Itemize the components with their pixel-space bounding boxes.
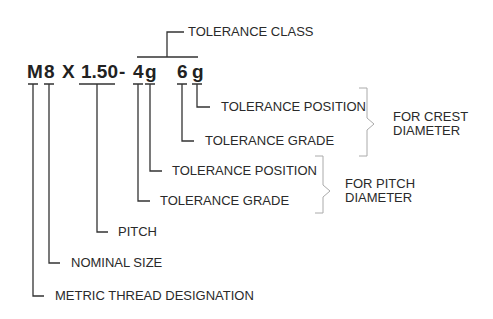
group-crest-line2: DIAMETER (393, 124, 460, 138)
pitch-grade-leader (133, 84, 150, 201)
label-tolerance-class: TOLERANCE CLASS (188, 25, 313, 39)
designation-size: 8 (44, 62, 55, 82)
pitch-brace (315, 156, 330, 213)
pitch-position-leader (145, 84, 162, 171)
designation-pitch: 1.50 (81, 62, 118, 82)
nominal-size-leader (44, 84, 60, 263)
group-pitch-line2: DIAMETER (345, 191, 412, 205)
leader-lines (0, 0, 493, 319)
label-pitch-tolerance-grade: TOLERANCE GRADE (160, 194, 289, 208)
crest-grade-leader (177, 84, 194, 141)
designation-pitch-grade: 4 (133, 62, 144, 82)
designation-x: X (62, 62, 75, 82)
group-pitch-line1: FOR PITCH (345, 177, 415, 191)
label-metric-thread-designation: METRIC THREAD DESIGNATION (55, 289, 254, 303)
label-pitch: PITCH (118, 225, 157, 239)
designation-m: M (27, 62, 43, 82)
label-crest-tolerance-grade: TOLERANCE GRADE (205, 134, 334, 148)
crest-position-leader (192, 84, 210, 107)
designation-crest-grade: 6 (177, 62, 188, 82)
label-crest-tolerance-position: TOLERANCE POSITION (221, 100, 366, 114)
label-pitch-tolerance-position: TOLERANCE POSITION (172, 164, 317, 178)
designation-dash: - (119, 62, 125, 82)
metric-leader (28, 84, 44, 296)
designation-crest-position: g (192, 62, 204, 82)
label-nominal-size: NOMINAL SIZE (71, 256, 162, 270)
designation-pitch-position: g (145, 62, 157, 82)
pitch-leader (79, 84, 115, 232)
group-crest-line1: FOR CREST (393, 110, 468, 124)
